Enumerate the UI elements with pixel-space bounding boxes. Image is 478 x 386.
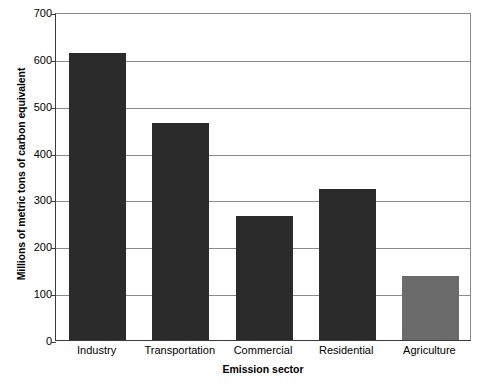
x-tick-label-agriculture: Agriculture <box>403 344 456 356</box>
x-axis-tick-labels: IndustryTransportationCommercialResident… <box>55 344 471 360</box>
bar-residential[interactable] <box>319 189 376 340</box>
x-tick-label-transportation: Transportation <box>145 344 216 356</box>
y-tick-label: 0 <box>18 336 52 347</box>
y-tick-label: 700 <box>18 8 52 19</box>
plot-area <box>55 13 471 341</box>
bar-chart: Millions of metric tons of carbon equiva… <box>0 0 478 386</box>
bar-commercial[interactable] <box>236 216 293 340</box>
x-tick-label-residential: Residential <box>319 344 373 356</box>
y-tick-label: 500 <box>18 101 52 112</box>
x-axis-title: Emission sector <box>55 363 471 375</box>
y-tick-label: 600 <box>18 54 52 65</box>
bar-industry[interactable] <box>69 53 126 340</box>
y-tick-mark <box>51 342 56 343</box>
bar-agriculture[interactable] <box>402 276 459 340</box>
bars-group <box>56 14 470 340</box>
y-tick-label: 300 <box>18 195 52 206</box>
y-tick-label: 100 <box>18 289 52 300</box>
y-tick-label: 200 <box>18 242 52 253</box>
bar-transportation[interactable] <box>152 123 209 340</box>
y-axis-tick-labels: 0100200300400500600700 <box>14 0 52 386</box>
x-tick-label-commercial: Commercial <box>234 344 293 356</box>
x-tick-label-industry: Industry <box>77 344 116 356</box>
y-tick-label: 400 <box>18 148 52 159</box>
